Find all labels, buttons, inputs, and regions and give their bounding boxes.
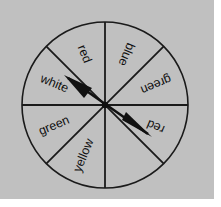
sector-label-green-left-lower: green [36,113,71,138]
sector-label-green-right-upper: green [139,72,174,97]
pointer-hub [102,102,108,108]
spinner-figure: blue green red yellow green white red [0,0,221,207]
spinner-wheel-graphic: blue green red yellow green white red [0,0,221,207]
sector-label-blue-top: blue [116,41,138,68]
sector-label-white-left-upper: white [37,71,70,96]
sector-label-red-top-left: red [75,43,95,65]
sector-label-yellow-bottom: yellow [70,136,97,174]
